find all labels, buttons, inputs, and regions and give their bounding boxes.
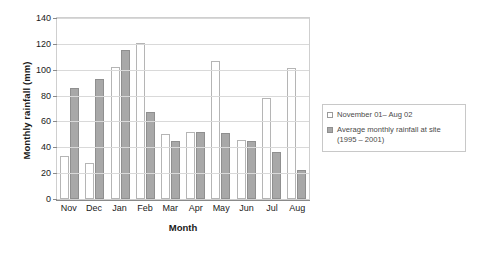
bar-jun-series0 <box>237 140 246 199</box>
bar-group-jun <box>233 18 258 199</box>
bar-jan-series0 <box>111 67 120 199</box>
x-tick-label-nov: Nov <box>56 203 81 213</box>
bar-mar-series1 <box>171 141 180 199</box>
y-tick-label: 80 <box>41 91 51 101</box>
legend-label-1: Average monthly rainfall at site(1995 – … <box>337 125 441 145</box>
x-tick-label-jun: Jun <box>234 203 259 213</box>
bar-may-series0 <box>211 61 220 199</box>
y-tick-mark <box>53 121 57 122</box>
bar-jun-series1 <box>247 141 256 199</box>
bar-feb-series1 <box>146 112 155 199</box>
bar-group-apr <box>183 18 208 199</box>
bar-dec-series1 <box>95 79 104 199</box>
y-tick-label: 100 <box>36 65 51 75</box>
x-tick-label-apr: Apr <box>183 203 208 213</box>
bar-group-mar <box>158 18 183 199</box>
y-tick-mark <box>53 70 57 71</box>
legend-swatch-icon-1 <box>327 127 333 133</box>
x-tick-label-mar: Mar <box>158 203 183 213</box>
y-tick-mark <box>53 18 57 19</box>
y-tick-label: 60 <box>41 116 51 126</box>
y-tick-mark <box>53 44 57 45</box>
x-axis-title: Month <box>56 222 310 233</box>
x-tick-label-jul: Jul <box>259 203 284 213</box>
y-gridline <box>57 44 309 45</box>
y-tick-label: 0 <box>46 194 51 204</box>
bar-apr-series0 <box>186 132 195 199</box>
bar-dec-series0 <box>85 163 94 199</box>
y-gridline <box>57 18 309 19</box>
y-tick-mark <box>53 147 57 148</box>
legend-label-1-line2: (1995 – 2001) <box>337 135 441 145</box>
bar-nov-series1 <box>70 88 79 199</box>
y-tick-mark <box>53 96 57 97</box>
y-tick-mark <box>53 173 57 174</box>
x-tick-label-jan: Jan <box>107 203 132 213</box>
bar-groups <box>57 18 309 199</box>
y-axis-title: Monthly rainfall (mm) <box>21 31 32 191</box>
x-axis-line <box>56 200 310 201</box>
x-tick-label-dec: Dec <box>81 203 106 213</box>
rainfall-bar-chart: Monthly rainfall (mm) 020406080100120140… <box>0 0 478 258</box>
y-tick-label: 120 <box>36 39 51 49</box>
bar-apr-series1 <box>196 132 205 199</box>
bar-may-series1 <box>221 133 230 199</box>
y-tick-label: 40 <box>41 142 51 152</box>
bar-group-dec <box>82 18 107 199</box>
plot-area: 020406080100120140 <box>56 17 310 200</box>
chart-legend: November 01– Aug 02Average monthly rainf… <box>322 104 466 152</box>
y-gridline <box>57 96 309 97</box>
legend-swatch-icon-0 <box>327 112 333 118</box>
bar-group-aug <box>284 18 309 199</box>
bar-group-feb <box>133 18 158 199</box>
y-gridline <box>57 70 309 71</box>
bar-group-may <box>208 18 233 199</box>
bar-jul-series1 <box>272 152 281 199</box>
bar-jan-series1 <box>121 50 130 199</box>
y-tick-label: 20 <box>41 168 51 178</box>
y-gridline <box>57 121 309 122</box>
x-axis-tick-labels: NovDecJanFebMarAprMayJunJulAug <box>56 203 310 213</box>
y-gridline <box>57 147 309 148</box>
bar-aug-series1 <box>297 170 306 199</box>
bar-nov-series0 <box>60 156 69 199</box>
x-tick-label-may: May <box>208 203 233 213</box>
bar-group-nov <box>57 18 82 199</box>
legend-label-0: November 01– Aug 02 <box>337 110 413 120</box>
bar-aug-series0 <box>287 68 296 199</box>
legend-item-1: Average monthly rainfall at site(1995 – … <box>327 125 460 145</box>
y-gridline <box>57 173 309 174</box>
bar-group-jul <box>259 18 284 199</box>
y-tick-label: 140 <box>36 13 51 23</box>
x-tick-label-aug: Aug <box>285 203 310 213</box>
x-tick-label-feb: Feb <box>132 203 157 213</box>
bar-group-jan <box>107 18 132 199</box>
bar-mar-series0 <box>161 134 170 199</box>
legend-item-0: November 01– Aug 02 <box>327 110 460 120</box>
